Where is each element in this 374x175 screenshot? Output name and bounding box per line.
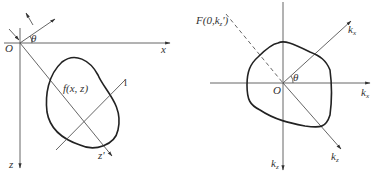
z-axis-label: z <box>8 158 14 170</box>
function-label: f(x, z) <box>63 82 88 95</box>
object-contour <box>46 58 119 148</box>
x-axis-label: x <box>160 43 166 55</box>
projection-slice-line <box>226 14 283 83</box>
kz-label: kz <box>271 157 279 171</box>
kx-prime-label: kx <box>348 23 357 37</box>
normal-arrow <box>26 13 33 25</box>
theta-label: θ <box>31 32 37 44</box>
left-panel: O x z z' θ f(x, z) l <box>4 13 170 170</box>
right-panel: O θ kx kz kx kz F(0,kz') <box>195 2 370 171</box>
origin-label: O <box>5 42 13 54</box>
theta-label: θ <box>293 71 299 83</box>
rotated-x-prime-axis <box>20 19 55 43</box>
incoming-ray-arrow <box>9 29 19 40</box>
z-prime-label: z' <box>97 149 105 161</box>
kz-prime-axis <box>283 83 341 149</box>
fourier-slice-diagram: O x z z' θ f(x, z) l O θ kx kz kx kz F(0… <box>0 0 374 175</box>
projection-label: F(0,kz') <box>195 14 229 28</box>
line-l-label: l <box>124 76 127 88</box>
origin-label: O <box>273 84 281 96</box>
kx-label: kx <box>361 86 370 100</box>
kz-prime-label: kz <box>331 150 339 164</box>
spectrum-contour <box>247 42 332 127</box>
